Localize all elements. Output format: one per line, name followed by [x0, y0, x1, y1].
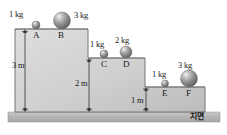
point-label-F: F — [186, 89, 191, 98]
staircase-body — [15, 29, 205, 112]
mass-label-C: 1 kg — [90, 40, 104, 49]
mass-label-D: 2 kg — [115, 36, 129, 45]
mass-sphere-F — [181, 70, 198, 87]
mass-label-F: 3 kg — [178, 61, 192, 70]
dimension-label-2m: 2 m — [75, 79, 87, 88]
mass-sphere-A — [32, 21, 40, 29]
point-label-E: E — [162, 89, 167, 98]
mass-label-A: 1 kg — [9, 10, 23, 19]
dimension-label-3m: 3 m — [12, 61, 24, 70]
ground-band — [8, 112, 220, 122]
mass-label-E: 1 kg — [152, 70, 166, 79]
mass-sphere-D — [120, 46, 132, 58]
point-label-D: D — [123, 60, 129, 69]
point-label-B: B — [58, 31, 64, 40]
mass-label-B: 3 kg — [74, 11, 88, 20]
physics-diagram-staircase: 1 kg 3 kg 1 kg 2 kg 1 kg 3 kg A B C D E … — [0, 0, 227, 135]
point-label-C: C — [101, 60, 107, 69]
mass-sphere-B — [54, 12, 71, 29]
mass-sphere-C — [100, 50, 108, 58]
ground-label: 지면 — [190, 113, 204, 121]
point-label-A: A — [33, 31, 39, 40]
mass-sphere-E — [162, 80, 169, 87]
dimension-label-1m: 1 m — [131, 96, 143, 105]
